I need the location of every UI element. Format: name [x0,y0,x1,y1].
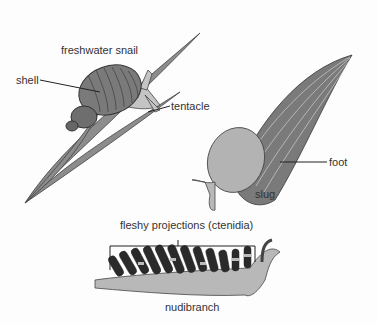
diagram-graphics [0,0,377,325]
leaf-blades [25,33,200,203]
tentacle-label: tentacle [171,100,210,112]
foot-label: foot [329,156,347,168]
nudibranch-title: nudibranch [165,301,219,313]
mollusc-diagram: freshwater snail shell tentacle slug foo… [0,0,377,325]
ctenidia-label: fleshy projections (ctenidia) [120,219,253,231]
shell-label: shell [16,74,39,86]
freshwater-snail [66,57,160,131]
slug-title: slug [255,188,275,200]
snail-title: freshwater snail [61,44,138,56]
nudibranch [95,240,280,296]
